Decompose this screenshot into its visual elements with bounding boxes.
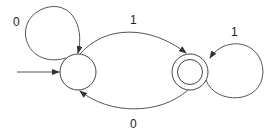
loop-q1-label: 1 [231, 25, 238, 39]
edge-q1-q0-label: 0 [130, 117, 137, 131]
edge-q0-q1-label: 1 [130, 13, 137, 27]
loop-q1 [206, 44, 263, 98]
state-q0 [60, 54, 96, 90]
edge-q0-q1 [80, 32, 186, 54]
loop-q0 [25, 6, 79, 59]
edge-q1-q0 [80, 90, 188, 109]
state-q1-inner [178, 60, 203, 85]
automaton-diagram: 0 1 0 1 [0, 0, 273, 132]
loop-q0-label: 0 [13, 15, 20, 29]
